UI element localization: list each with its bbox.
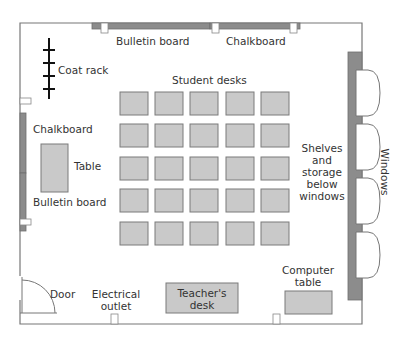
- label-windows: Windows: [379, 149, 391, 196]
- label-chalkboard-top: Chalkboard: [226, 35, 286, 47]
- computer-table: [285, 291, 332, 314]
- label-bulletin-board-left: Bulletin board: [33, 196, 107, 208]
- teacher-line-1: Teacher's: [166, 287, 238, 299]
- label-shelves: Shelves and storage below windows: [296, 142, 348, 202]
- outlet-bottom-2: [273, 314, 280, 324]
- label-teachers-desk: Teacher's desk: [166, 287, 238, 311]
- label-table: Table: [74, 160, 101, 172]
- computer-line-2: table: [280, 276, 336, 288]
- shelves-line-5: windows: [296, 190, 348, 202]
- side-table: [41, 144, 68, 192]
- label-electrical-outlet: Electrical outlet: [88, 288, 144, 312]
- outlet-line-2: outlet: [88, 300, 144, 312]
- outlet-left-1: [20, 98, 31, 104]
- outlet-bottom-1: [111, 314, 118, 324]
- chalkboard-top: [210, 23, 300, 29]
- shelves-line-2: and: [296, 154, 348, 166]
- teacher-line-2: desk: [166, 299, 238, 311]
- coat-rack-icon: [43, 38, 55, 99]
- outlet-top-2: [212, 23, 219, 33]
- chalkboard-left: [20, 113, 26, 173]
- computer-line-1: Computer: [280, 264, 336, 276]
- label-bulletin-board-top: Bulletin board: [116, 35, 190, 47]
- outlet-left-2: [20, 219, 31, 225]
- label-door: Door: [50, 288, 75, 300]
- outlet-top-1: [101, 23, 108, 33]
- shelves-line-1: Shelves: [296, 142, 348, 154]
- shelves-line-3: storage: [296, 166, 348, 178]
- label-computer-table: Computer table: [280, 264, 336, 288]
- outlet-top-3: [290, 23, 297, 33]
- shelves-line-4: below: [296, 178, 348, 190]
- label-coat-rack: Coat rack: [58, 64, 108, 76]
- outlet-line-1: Electrical: [88, 288, 144, 300]
- label-chalkboard-left: Chalkboard: [33, 123, 93, 135]
- label-student-desks: Student desks: [172, 74, 247, 86]
- student-desks: [120, 92, 289, 245]
- bulletin-board-top: [92, 23, 210, 29]
